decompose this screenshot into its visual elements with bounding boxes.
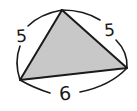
arc-left-side-lower — [17, 46, 20, 80]
triangle-diagram: 5 5 6 — [0, 0, 137, 111]
arc-bottom-side-left — [20, 80, 50, 93]
side-label-right: 5 — [103, 22, 115, 40]
side-label-left: 5 — [15, 28, 27, 46]
side-label-bottom: 6 — [58, 84, 71, 104]
